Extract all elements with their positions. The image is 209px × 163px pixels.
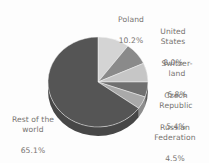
slice-label-czech-republic-name: Czech Republic [150,91,202,111]
slice-label-rest-of-the-world: Rest of the world 65.1% [2,105,64,163]
slice-label-russian-federation-percent: 4.5% [146,154,204,163]
slice-label-united-states-name: United States [150,27,196,47]
slice-label-switzerland-name: Switzer- land [152,59,202,79]
slice-label-rest-of-the-world-percent: 65.1% [2,146,64,156]
slice-label-rest-of-the-world-name: Rest of the world [2,115,64,135]
slice-label-russian-federation-name: Russian Federation [146,123,204,143]
pie-chart-figure: Poland 10.2% United States 8.0% Switzer-… [0,0,209,163]
slice-label-russian-federation: Russian Federation 4.5% [146,113,204,163]
